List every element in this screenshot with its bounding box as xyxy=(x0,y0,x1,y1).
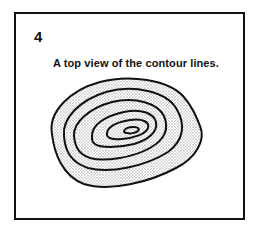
contour-lines-diagram xyxy=(0,0,259,230)
contour-line-6 xyxy=(124,127,139,133)
